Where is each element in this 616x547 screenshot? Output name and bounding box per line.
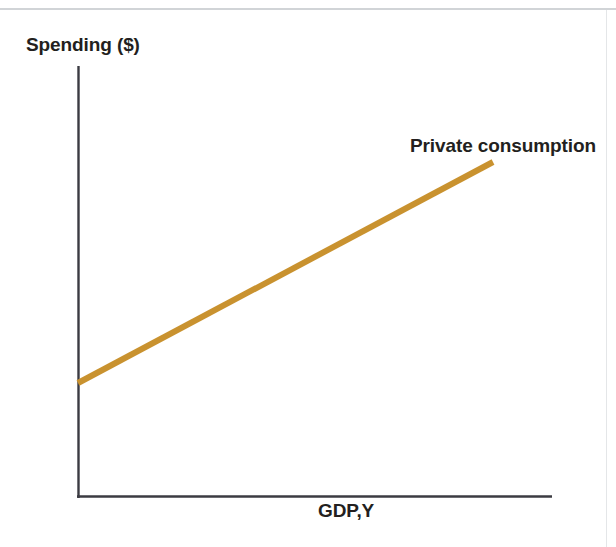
series-label-private-consumption: Private consumption — [410, 135, 596, 157]
chart-canvas — [0, 0, 616, 547]
y-axis-label: Spending ($) — [26, 34, 140, 56]
chart-page: Spending ($) GDP,Y Private consumption — [0, 0, 616, 547]
x-axis-label: GDP,Y — [318, 500, 374, 522]
private-consumption-line — [78, 162, 493, 383]
